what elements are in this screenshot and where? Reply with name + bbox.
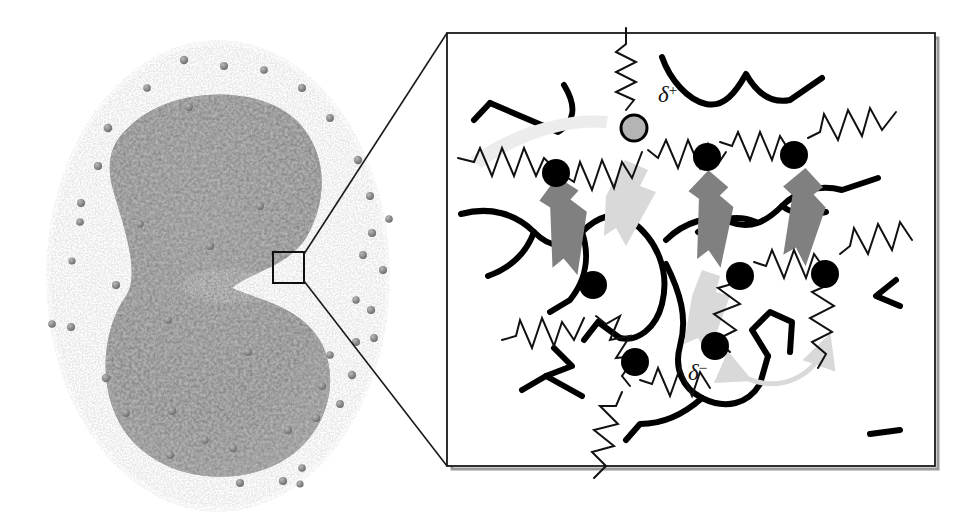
schematic-svg: δ+ δ− (430, 0, 972, 526)
bead-negative-2 (693, 143, 721, 171)
bead-negative-6 (811, 260, 839, 288)
snapshot-svg (0, 0, 430, 526)
figure-root: δ+ δ− (0, 0, 972, 526)
magnified-schematic-panel: δ+ δ− (430, 0, 972, 526)
bead-negative-5 (726, 262, 754, 290)
bead-negative-3 (780, 141, 808, 169)
bead-negative-1 (542, 159, 570, 187)
bead-negative-4 (579, 271, 607, 299)
bead-negative-7 (621, 348, 649, 376)
bead-negative-8 (701, 332, 729, 360)
bead-positive (621, 115, 647, 141)
simulation-snapshot-panel (0, 0, 430, 526)
